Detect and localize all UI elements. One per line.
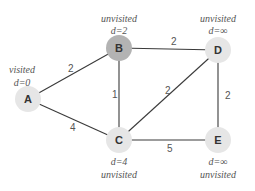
node-a-distance: d=0	[14, 77, 31, 88]
node-d-status: unvisited	[200, 13, 237, 24]
node-c-distance: d=4	[111, 156, 128, 167]
node-b-distance: d=2	[111, 25, 128, 36]
node-b-label: B	[115, 42, 123, 54]
edge-weight-a-b: 2	[68, 63, 74, 74]
edge-weight-b-d: 2	[171, 36, 177, 47]
node-c: C	[106, 127, 132, 153]
graph-diagram: 2 4 1 2 2 5 2 A B C D E visited d=0 unvi…	[0, 0, 255, 191]
node-a: A	[15, 86, 41, 112]
node-e-label: E	[214, 134, 221, 146]
node-d-distance: d=∞	[209, 25, 228, 36]
node-d: D	[205, 37, 231, 63]
edge-a-c	[28, 99, 119, 140]
edge-weight-c-d: 2	[165, 85, 171, 96]
edge-b-d	[119, 48, 218, 50]
node-e-distance: d=∞	[209, 156, 228, 167]
edge-weight-d-e: 2	[225, 90, 231, 101]
node-a-status: visited	[9, 64, 36, 75]
edges	[28, 48, 218, 140]
edge-weight-a-c: 4	[70, 122, 76, 133]
node-c-label: C	[115, 134, 123, 146]
node-c-status: unvisited	[101, 169, 138, 180]
node-d-label: D	[214, 44, 222, 56]
edge-weight-b-c: 1	[112, 89, 118, 100]
node-e-status: unvisited	[200, 169, 237, 180]
node-a-label: A	[24, 93, 32, 105]
node-b-status: unvisited	[101, 13, 138, 24]
edge-weight-c-e: 5	[167, 143, 173, 154]
node-e: E	[205, 127, 231, 153]
node-b: B	[106, 35, 132, 61]
